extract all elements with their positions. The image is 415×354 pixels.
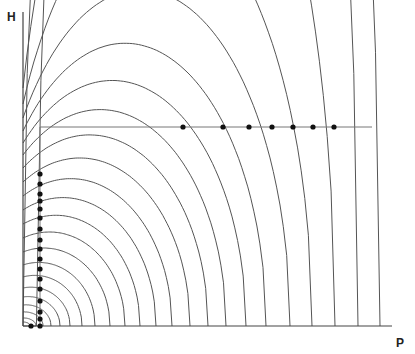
tangency-dot [220,124,225,129]
tangency-dot [37,316,42,321]
curve [23,43,266,326]
tangency-dot [37,298,42,303]
curve [23,287,70,326]
y-axis-label: H [7,10,16,24]
curve [23,248,110,326]
tangency-dot [290,124,295,129]
tangency-dot [37,237,42,242]
curve [23,275,82,326]
tangency-dot [310,124,315,129]
tangency-dot [37,276,42,281]
tangency-dot [37,215,42,220]
diagram-canvas: H P [0,0,415,354]
curve [23,110,226,326]
curve [23,0,358,326]
arc-diagram [0,0,415,354]
tangency-dot [37,246,42,251]
tangency-dot [246,124,251,129]
tangency-dot [37,256,42,261]
tangency-dot [331,124,336,129]
tangency-dot [37,286,42,291]
curve [23,262,95,326]
tangency-dot [37,198,42,203]
curve [23,0,290,326]
tangency-dot [37,226,42,231]
tangency-dot [37,323,42,328]
tangency-dot [180,124,185,129]
tangency-dot [37,206,42,211]
tangency-dot [37,171,42,176]
curve [23,179,172,326]
tangency-dot [37,266,42,271]
x-axis-label: P [396,336,404,350]
tangency-dot [37,309,42,314]
curve [23,0,380,326]
tangency-dot [37,191,42,196]
tangency-dot [37,181,42,186]
tangency-dot [28,323,33,328]
indifference-curves [23,0,380,326]
curve [23,0,312,326]
tangency-dot [269,124,274,129]
